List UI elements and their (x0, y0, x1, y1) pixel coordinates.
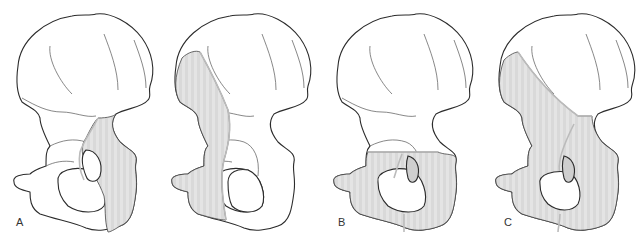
panel-label: C (504, 216, 512, 228)
panel-c: C (482, 0, 642, 246)
panel-label: B (338, 216, 345, 228)
hip-bone-illustration (158, 0, 320, 246)
hip-bone-illustration (482, 0, 642, 246)
hip-bone-illustration (0, 0, 160, 246)
panel-b: B (320, 0, 482, 246)
panel-a-right (158, 0, 320, 246)
panel-a-left: A (0, 0, 160, 246)
hip-bone-illustration (320, 0, 482, 246)
panel-label: A (16, 216, 23, 228)
